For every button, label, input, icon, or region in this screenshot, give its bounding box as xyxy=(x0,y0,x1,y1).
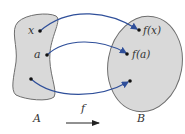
point-c xyxy=(29,77,33,81)
point-fc xyxy=(128,79,132,83)
label-set-b: B xyxy=(136,112,145,125)
label-fx: f(x) xyxy=(142,24,161,36)
point-x xyxy=(38,29,42,33)
label-fa: f(a) xyxy=(131,48,150,60)
point-fx xyxy=(137,28,141,32)
label-x: x xyxy=(28,24,35,37)
point-a xyxy=(45,53,49,57)
label-function-f: f xyxy=(80,102,87,115)
function-diagram: x a f(x) f(a) A B f xyxy=(0,0,185,134)
point-fa xyxy=(125,52,129,56)
label-set-a: A xyxy=(32,112,41,125)
label-a: a xyxy=(34,48,41,61)
